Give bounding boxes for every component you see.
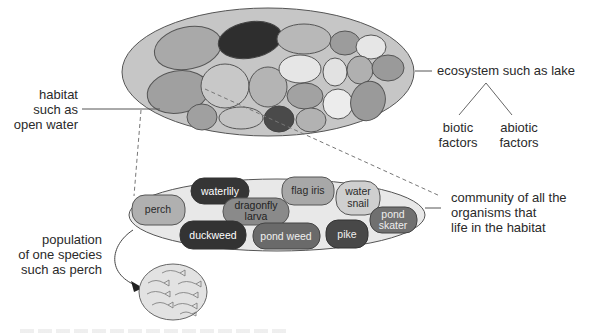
organism-label: perch [145, 203, 171, 215]
habitat-line: habitat [0, 87, 78, 102]
organism-label: skater [379, 219, 408, 231]
organism-label: snail [347, 197, 369, 209]
organism-label: larva [245, 210, 268, 222]
organism-label: water [344, 185, 371, 197]
organism-pond-skater: pond skater [370, 207, 417, 233]
community-line: community of all the [451, 190, 567, 205]
community-line: organisms that [451, 205, 567, 220]
organism-label: waterlily [200, 185, 240, 197]
organism-flag-iris: flag iris [282, 177, 334, 205]
organism-pond-weed: pond weed [253, 223, 320, 249]
community-line: life in the habitat [451, 220, 567, 235]
population-label: population of one species such as perch [0, 232, 102, 277]
abiotic-line2: factors [494, 135, 544, 150]
population-line: such as perch [0, 262, 102, 277]
abiotic-factors-label: abiotic factors [494, 120, 544, 150]
organism-label: pike [337, 228, 356, 240]
biotic-factors-label: biotic factors [436, 120, 480, 150]
ecosystem-diagram: waterlily flag iris water snail perch dr… [0, 0, 591, 336]
abiotic-branch-line [486, 83, 512, 115]
population-circle [139, 264, 207, 320]
population-line: of one species [0, 247, 102, 262]
zoom-dashed-line-left [134, 110, 141, 196]
ecosystem-ellipse [122, 8, 414, 136]
community-label: community of all the organisms that life… [451, 190, 567, 235]
ecosystem-label: ecosystem such as lake [437, 63, 575, 78]
biotic-line2: factors [436, 135, 480, 150]
cropped-caption [20, 329, 290, 333]
habitat-line: open water [0, 117, 78, 132]
abiotic-line1: abiotic [494, 120, 544, 135]
biotic-line1: biotic [436, 120, 480, 135]
biotic-branch-line [459, 83, 486, 115]
habitat-label: habitat such as open water [0, 87, 78, 132]
organism-pike: pike [326, 220, 368, 248]
organism-label: flag iris [291, 184, 324, 196]
habitat-line: such as [0, 102, 78, 117]
organism-duckweed: duckweed [180, 221, 246, 249]
organism-label: duckweed [189, 229, 236, 241]
organism-label: pond weed [260, 230, 312, 242]
population-line: population [0, 232, 102, 247]
population-arrow-line [115, 230, 140, 287]
organism-water-snail: water snail [336, 181, 380, 215]
organism-perch: perch [132, 195, 185, 225]
